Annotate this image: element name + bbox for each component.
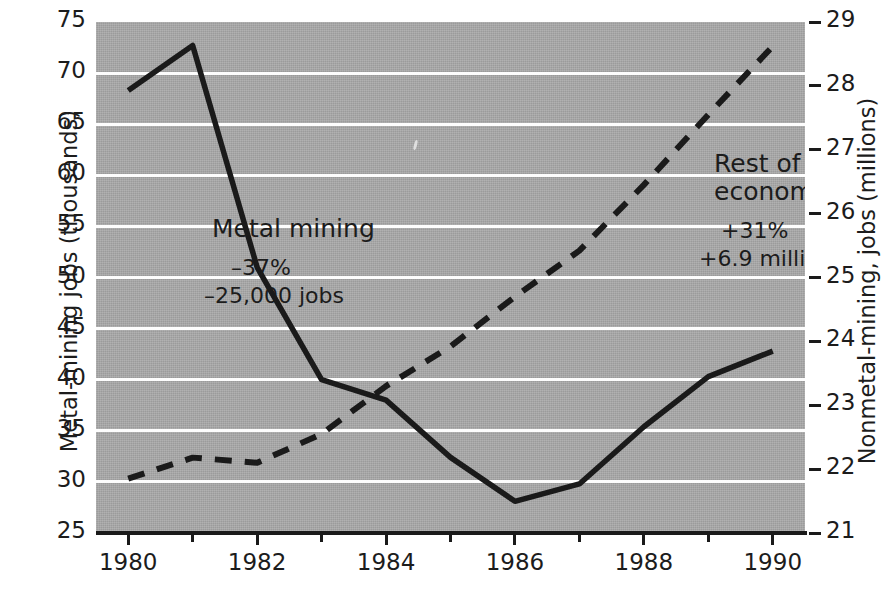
x-axis-tick-major [385,535,388,545]
annotation-rest-of-economy-jobs: +6.9 million jobs [699,246,805,271]
x-axis-tick-minor [707,535,710,542]
y-axis-right-tick-label: 21 [826,517,886,543]
x-axis-tick-minor [449,535,452,542]
y-axis-right-title: Nonmetal-mining, jobs (millions) [854,46,880,516]
x-axis-tick-label: 1986 [470,549,560,575]
y-axis-left-title: Metal-mining jobs (thousands) [56,46,82,516]
y-axis-right-tick [809,468,821,471]
y-axis-left-tick-label: 75 [18,6,86,32]
y-axis-right-tick [809,532,821,535]
chart-figure: Metal mining –37% –25,000 jobs Rest of e… [0,0,896,607]
x-axis-tick-label: 1990 [728,549,818,575]
x-axis-tick-major [513,535,516,545]
x-axis-tick-major [256,535,259,545]
y-axis-right-tick-label: 29 [826,6,886,32]
x-axis-tick-label: 1982 [212,549,302,575]
x-axis-tick-major [642,535,645,545]
annotation-rest-of-economy-title: Rest of economy [714,150,805,206]
annotation-metal-mining-jobs: –25,000 jobs [204,283,344,308]
y-axis-right-tick [809,21,821,24]
annotation-rest-of-economy-percent: +31% [721,218,788,243]
annotation-rest-of-economy-title-line2: economy [714,178,805,206]
x-axis-tick-major [771,535,774,545]
y-axis-right-tick [809,340,821,343]
annotation-rest-of-economy-title-line1: Rest of [714,150,805,178]
x-axis-tick-minor [320,535,323,542]
annotation-metal-mining-percent: –37% [231,255,291,280]
y-axis-right-tick [809,148,821,151]
plot-area: Metal mining –37% –25,000 jobs Rest of e… [96,22,805,533]
series-line-rest-of-economy [128,46,773,478]
x-axis-tick-minor [191,535,194,542]
x-axis-tick-label: 1984 [341,549,431,575]
series-line-metal-mining [128,46,773,502]
y-axis-right-tick [809,84,821,87]
x-axis-tick-minor [578,535,581,542]
y-axis-right-tick [809,276,821,279]
x-axis-tick-label: 1988 [599,549,689,575]
x-axis-tick-label: 1980 [83,549,173,575]
series-lines [96,22,805,533]
x-axis-tick-major [127,535,130,545]
annotation-metal-mining-title: Metal mining [212,214,375,243]
y-axis-left-tick-label: 25 [18,517,86,543]
y-axis-right-tick [809,212,821,215]
y-axis-right-tick [809,404,821,407]
